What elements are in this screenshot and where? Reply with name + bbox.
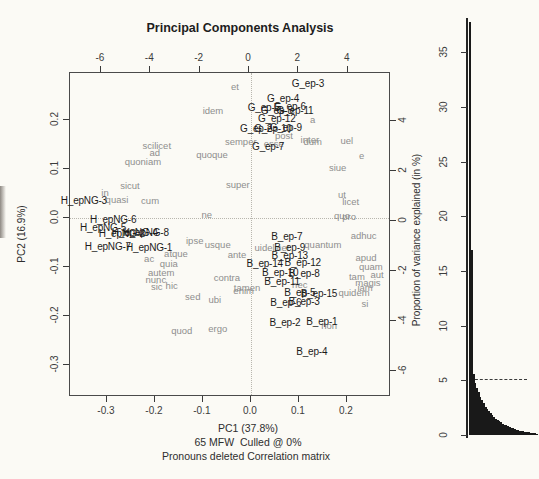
y-tick xyxy=(63,168,69,169)
scree-tick-label: 25 xyxy=(439,156,449,167)
x-axis-label: PC1 (37.8%) xyxy=(218,423,278,434)
top-tick xyxy=(149,66,150,72)
x-tick xyxy=(298,396,299,402)
x-tick-label: -0.1 xyxy=(193,406,210,416)
word-label: hic xyxy=(166,281,178,291)
y-tick-label: 0.2 xyxy=(50,112,60,126)
word-label: quoniam xyxy=(125,157,161,167)
word-label: dum xyxy=(303,137,321,147)
right-tick xyxy=(390,170,396,171)
x-tick-label: -0.3 xyxy=(97,406,114,416)
word-label: adhuc xyxy=(351,231,377,241)
right-tick-label: 4 xyxy=(398,117,408,123)
scree-tick xyxy=(461,435,467,436)
y-tick xyxy=(63,266,69,267)
top-tick xyxy=(347,66,348,72)
scree-tick xyxy=(461,326,467,327)
x-tick xyxy=(346,396,347,402)
scree-tick xyxy=(461,216,467,217)
scree-bar xyxy=(536,434,538,435)
sample-label: H_epNG-8 xyxy=(123,228,169,238)
word-label: uel xyxy=(340,136,353,146)
scree-tick-label: 30 xyxy=(439,102,449,113)
x-tick xyxy=(106,396,107,402)
top-tick-label: 0 xyxy=(245,53,251,63)
zero-vline xyxy=(251,73,252,395)
sample-label: H_epNG-3 xyxy=(61,196,107,206)
sample-label: H_epNG-1 xyxy=(126,243,172,253)
word-label: sic xyxy=(151,282,163,292)
word-label: quasi xyxy=(106,195,129,205)
top-tick-label: -4 xyxy=(145,53,154,63)
word-label: quod xyxy=(171,327,192,337)
scree-tick-label: 20 xyxy=(439,211,449,222)
right-tick xyxy=(390,120,396,121)
word-label: licet xyxy=(342,197,359,207)
scree-tick xyxy=(461,380,467,381)
right-tick-label: -6 xyxy=(398,366,408,375)
x-tick xyxy=(154,396,155,402)
y-tick-label: -0.3 xyxy=(50,356,60,373)
word-label: sed xyxy=(185,292,200,302)
top-tick-label: 2 xyxy=(295,53,301,63)
scree-tick-label: 10 xyxy=(439,320,449,331)
word-label: ne xyxy=(201,210,212,220)
scree-tick-label: 15 xyxy=(439,265,449,276)
word-label: ergo xyxy=(208,325,227,335)
top-tick-label: 4 xyxy=(344,53,350,63)
word-label: idem xyxy=(203,106,224,116)
sample-label: G_ep-7 xyxy=(252,142,284,152)
top-tick xyxy=(100,66,101,72)
word-label: ac xyxy=(144,254,154,264)
x-tick-label: 0.1 xyxy=(291,406,305,416)
pca-biplot-screenshot: Principal Components Analysis PC1 (37.8%… xyxy=(0,0,539,479)
word-label: et xyxy=(231,82,239,92)
y-tick xyxy=(63,315,69,316)
x-tick-label: 0.2 xyxy=(339,406,353,416)
y-tick-label: -0.1 xyxy=(50,257,60,274)
right-tick-label: 2 xyxy=(398,167,408,173)
y-tick-label: 0.0 xyxy=(50,210,60,224)
sample-label: B_ep-2 xyxy=(269,318,300,328)
y-tick xyxy=(63,119,69,120)
top-tick-label: -2 xyxy=(194,53,203,63)
scree-y-axis-label: Proportion of variance explained (in %) xyxy=(412,154,422,326)
word-label: pro xyxy=(342,212,356,222)
sample-label: H_epNG-7 xyxy=(85,242,131,252)
word-label: a xyxy=(310,115,315,125)
scree-threshold-line xyxy=(470,379,527,380)
chart-title: Principal Components Analysis xyxy=(146,21,333,35)
right-tick-label: -4 xyxy=(398,316,408,325)
word-label: quantum xyxy=(304,240,341,250)
x-tick xyxy=(202,396,203,402)
word-label: siue xyxy=(329,163,346,173)
right-tick xyxy=(390,220,396,221)
scree-axis-line xyxy=(466,18,468,438)
right-tick xyxy=(390,270,396,271)
y-tick-label: -0.2 xyxy=(50,306,60,323)
top-tick xyxy=(297,66,298,72)
word-label: e xyxy=(359,152,364,162)
sample-label: G_ep-9 xyxy=(270,123,302,133)
y-axis-label: PC2 (16.9%) xyxy=(17,205,27,262)
top-tick xyxy=(248,66,249,72)
right-tick xyxy=(390,320,396,321)
right-tick-label: -2 xyxy=(398,266,408,275)
word-label: enim xyxy=(233,286,254,296)
sample-label: B_ep-1 xyxy=(306,317,337,327)
word-label: ubi xyxy=(209,295,222,305)
right-tick xyxy=(390,370,396,371)
scree-tick-label: 0 xyxy=(439,432,449,438)
sample-label: B_ep-4 xyxy=(296,347,327,357)
y-tick xyxy=(63,364,69,365)
word-label: usque xyxy=(205,240,231,250)
sample-label: B_ep-11 xyxy=(264,277,300,287)
sample-label: B_ep-3 xyxy=(289,297,320,307)
word-label: super xyxy=(226,180,250,190)
sample-label: B_ep-7 xyxy=(271,232,302,242)
scree-tick-label: 5 xyxy=(439,378,449,384)
scree-tick xyxy=(461,107,467,108)
y-tick-label: 0.1 xyxy=(50,161,60,175)
y-tick xyxy=(63,217,69,218)
scree-tick xyxy=(461,52,467,53)
